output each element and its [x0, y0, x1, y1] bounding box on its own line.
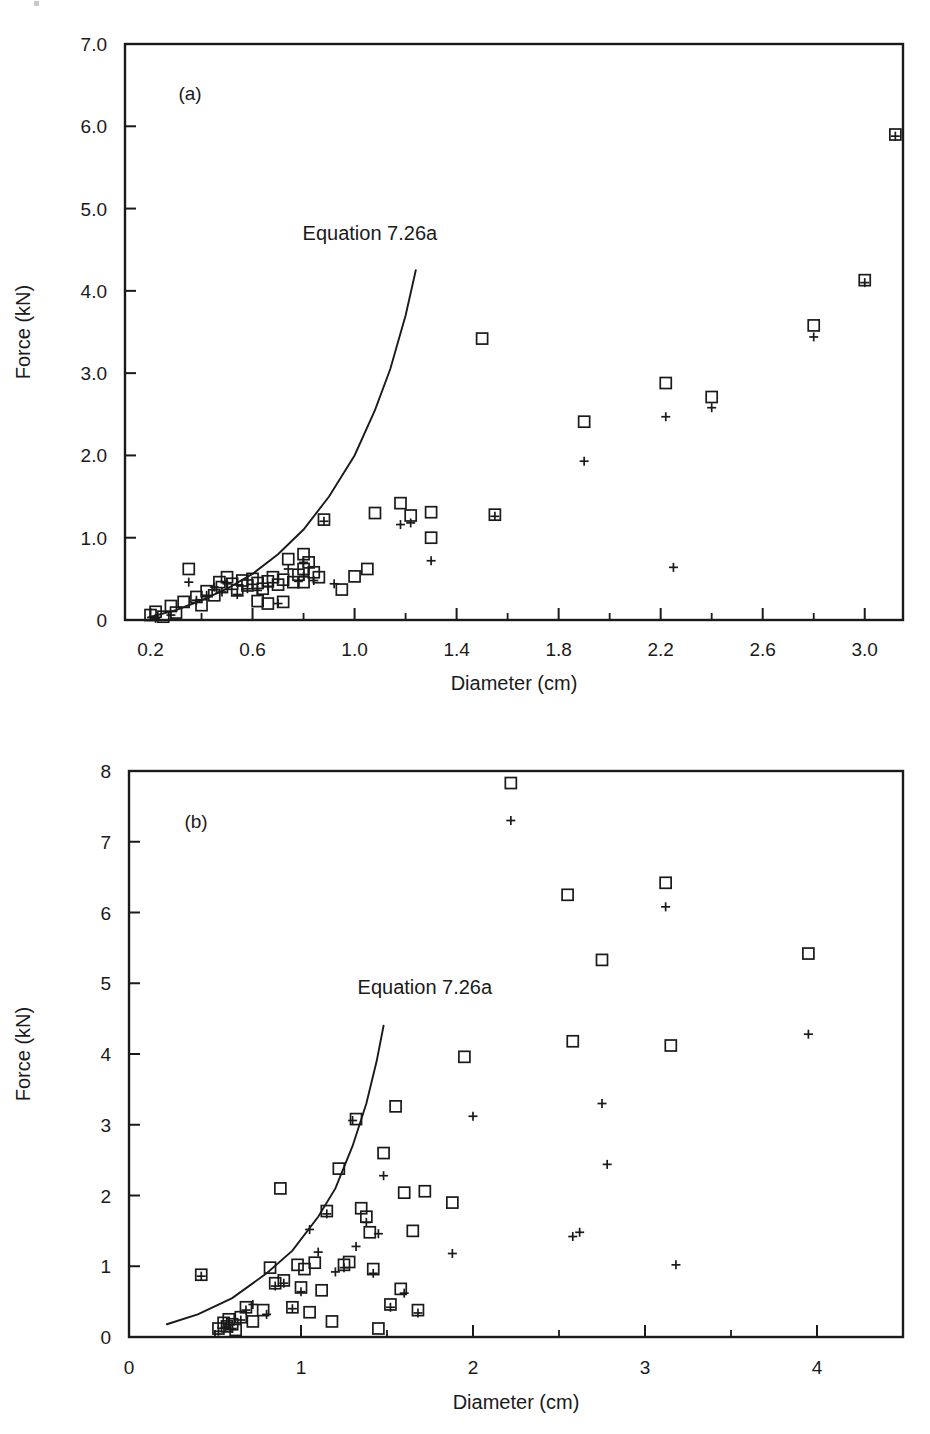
plus-marker [369, 1269, 378, 1278]
square-marker [419, 1186, 430, 1197]
plus-marker [379, 1171, 388, 1180]
equation-curve [148, 270, 416, 617]
plus-marker [197, 1272, 206, 1281]
square-marker [378, 1148, 389, 1159]
scan-speck [34, 1, 39, 6]
square-marker [183, 563, 194, 574]
plus-marker [707, 403, 716, 412]
x-tick-label: 2 [468, 1357, 479, 1378]
y-tick-label: 0 [96, 610, 107, 631]
square-marker [316, 1285, 327, 1296]
square-marker [326, 1316, 337, 1327]
x-axis-label: Diameter (cm) [451, 672, 578, 694]
square-marker [299, 1264, 310, 1275]
square-marker [364, 1227, 375, 1238]
plus-marker [506, 816, 515, 825]
y-tick-label: 5.0 [81, 199, 107, 220]
x-tick-label: 0.6 [239, 639, 265, 660]
plus-marker [575, 1228, 584, 1237]
y-tick-label: 7.0 [81, 34, 107, 55]
square-marker [362, 563, 373, 574]
y-tick-label: 2.0 [81, 445, 107, 466]
x-tick-label: 2.2 [647, 639, 673, 660]
plus-marker [580, 457, 589, 466]
square-marker [275, 1183, 286, 1194]
square-marker [395, 498, 406, 509]
square-marker [390, 1101, 401, 1112]
plus-marker [603, 1160, 612, 1169]
square-marker [304, 1307, 315, 1318]
square-marker [562, 889, 573, 900]
square-marker [447, 1197, 458, 1208]
x-tick-label: 0.2 [137, 639, 163, 660]
y-tick-label: 4 [100, 1044, 111, 1065]
chart-panel-a: 01.02.03.04.05.06.07.00.20.61.01.41.82.2… [0, 0, 930, 716]
plus-marker [400, 1289, 409, 1298]
square-marker [283, 554, 294, 565]
plus-marker [362, 1218, 371, 1227]
square-marker [262, 598, 273, 609]
square-marker [426, 532, 437, 543]
x-tick-label: 3.0 [852, 639, 878, 660]
x-tick-label: 4 [812, 1357, 823, 1378]
scan-artifact [0, 0, 930, 12]
y-axis-label: Force (kN) [12, 285, 34, 379]
y-tick-label: 0 [100, 1327, 111, 1348]
square-marker [660, 378, 671, 389]
plus-marker [406, 518, 415, 527]
y-tick-label: 3.0 [81, 363, 107, 384]
square-marker [808, 320, 819, 331]
y-tick-label: 3 [100, 1115, 111, 1136]
square-marker [336, 584, 347, 595]
square-marker [706, 392, 717, 403]
scatter-plot-a: 01.02.03.04.05.06.07.00.20.61.01.41.82.2… [0, 0, 930, 716]
plus-marker [661, 412, 670, 421]
square-marker [477, 333, 488, 344]
x-tick-label: 1.4 [443, 639, 470, 660]
plus-marker [661, 902, 670, 911]
square-marker [665, 1040, 676, 1051]
plus-marker [448, 1249, 457, 1258]
plus-marker [184, 578, 193, 587]
square-marker [309, 1257, 320, 1268]
y-tick-label: 2 [100, 1186, 111, 1207]
plus-marker [396, 520, 405, 529]
plus-marker [330, 579, 339, 588]
x-tick-label: 2.6 [749, 639, 775, 660]
plot-frame [129, 771, 903, 1337]
plus-marker [233, 590, 242, 599]
plus-marker [262, 1310, 271, 1319]
y-tick-label: 1 [100, 1256, 111, 1277]
plus-marker [809, 332, 818, 341]
plus-marker [348, 1116, 357, 1125]
plus-marker [288, 1304, 297, 1313]
plus-marker [314, 1248, 323, 1257]
y-tick-label: 1.0 [81, 528, 107, 549]
x-tick-label: 1.0 [341, 639, 367, 660]
plus-marker [294, 577, 303, 586]
x-tick-label: 3 [640, 1357, 651, 1378]
curve-annotation-label: Equation 7.26a [303, 222, 438, 244]
y-tick-label: 7 [100, 832, 111, 853]
scatter-plot-b: 01234567801234Equation 7.26a(b)Diameter … [0, 716, 930, 1434]
square-marker [567, 1036, 578, 1047]
y-tick-label: 5 [100, 973, 111, 994]
plus-marker [427, 556, 436, 565]
square-marker [597, 954, 608, 965]
plus-marker [297, 1287, 306, 1296]
square-marker [252, 596, 263, 607]
square-marker [459, 1051, 470, 1062]
y-tick-label: 6 [100, 903, 111, 924]
panel-label: (a) [178, 83, 201, 104]
y-tick-label: 8 [100, 761, 111, 782]
square-marker [803, 948, 814, 959]
plus-marker [469, 1112, 478, 1121]
panel-label: (b) [184, 811, 207, 832]
y-axis-label: Force (kN) [12, 1007, 34, 1101]
square-marker [407, 1225, 418, 1236]
figure-page: 01.02.03.04.05.06.07.00.20.61.01.41.82.2… [0, 0, 930, 1434]
curve-annotation-label: Equation 7.26a [358, 976, 493, 998]
x-tick-label: 1.8 [545, 639, 571, 660]
chart-panel-b: 01234567801234Equation 7.26a(b)Diameter … [0, 716, 930, 1434]
square-marker [292, 1259, 303, 1270]
